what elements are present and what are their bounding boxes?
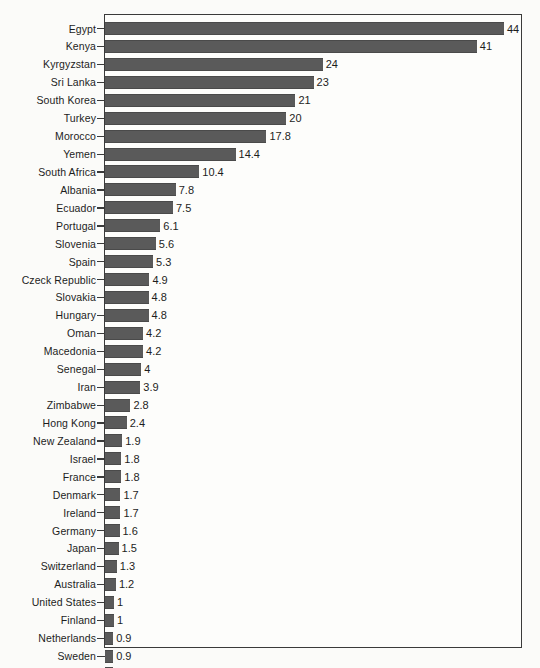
category-label: South Korea bbox=[37, 91, 96, 109]
bar-value-label: 0.9 bbox=[113, 629, 131, 647]
bar-row: Slovakia4.8 bbox=[0, 288, 540, 306]
bar-row: Turkey20 bbox=[0, 109, 540, 127]
bar-row: New Zealand1.9 bbox=[0, 432, 540, 450]
bar bbox=[105, 452, 121, 465]
bar bbox=[105, 112, 286, 125]
category-label: Senegal bbox=[57, 360, 96, 378]
bar bbox=[105, 148, 236, 161]
category-label: Sri Lanka bbox=[51, 73, 96, 91]
bar bbox=[105, 165, 199, 178]
category-label: France bbox=[63, 468, 96, 486]
bar-row: Morocco17.8 bbox=[0, 127, 540, 145]
axis-tick bbox=[97, 207, 105, 208]
axis-tick bbox=[97, 315, 105, 316]
category-label: Spain bbox=[69, 253, 96, 271]
bar-rows-container: Egypt44Kenya41Kyrgyzstan24Sri Lanka23Sou… bbox=[0, 0, 540, 668]
bar-value-label: 7.5 bbox=[173, 199, 191, 217]
category-label: Hong Kong bbox=[43, 414, 96, 432]
bar-row: Israel1.8 bbox=[0, 450, 540, 468]
category-label: Egypt bbox=[69, 20, 96, 38]
bar-row: Iran3.9 bbox=[0, 378, 540, 396]
bar bbox=[105, 578, 116, 591]
axis-tick bbox=[97, 566, 105, 567]
bar-value-label: 5.6 bbox=[156, 235, 174, 253]
bar-row: South Africa10.4 bbox=[0, 163, 540, 181]
bar-value-label: 1.7 bbox=[120, 486, 138, 504]
axis-tick bbox=[97, 422, 105, 423]
category-label: South Africa bbox=[38, 163, 96, 181]
category-label: Slovenia bbox=[55, 235, 96, 253]
bar bbox=[105, 58, 323, 71]
category-label: Oman bbox=[67, 324, 96, 342]
bar-value-label: 1.2 bbox=[116, 575, 134, 593]
bar bbox=[105, 219, 160, 232]
bar-row: Sweden0.9 bbox=[0, 647, 540, 665]
bar bbox=[105, 273, 149, 286]
axis-tick bbox=[97, 136, 105, 137]
bar-value-label: 1.8 bbox=[121, 450, 139, 468]
bar bbox=[105, 363, 141, 376]
bar-value-label: 1.3 bbox=[117, 557, 135, 575]
category-label: Sweden bbox=[57, 647, 96, 665]
bar-value-label: 1 bbox=[114, 611, 123, 629]
bar-row: Hungary4.8 bbox=[0, 306, 540, 324]
axis-tick bbox=[97, 154, 105, 155]
bar bbox=[105, 76, 314, 89]
bar bbox=[105, 506, 120, 519]
bar-value-label: 14.4 bbox=[236, 145, 260, 163]
category-label: New Zealand bbox=[33, 432, 96, 450]
bar bbox=[105, 650, 113, 663]
axis-tick bbox=[97, 261, 105, 262]
bar bbox=[105, 560, 117, 573]
axis-tick bbox=[97, 189, 105, 190]
bar bbox=[105, 130, 266, 143]
axis-tick bbox=[97, 512, 105, 513]
category-label: Albania bbox=[60, 181, 96, 199]
bar-value-label: 4.8 bbox=[149, 306, 167, 324]
axis-tick bbox=[97, 476, 105, 477]
axis-tick bbox=[97, 243, 105, 244]
axis-tick bbox=[97, 28, 105, 29]
axis-tick bbox=[97, 333, 105, 334]
bar-row: Slovenia5.6 bbox=[0, 235, 540, 253]
bar-row: Switzerland1.3 bbox=[0, 557, 540, 575]
bar-value-label: 2.4 bbox=[127, 414, 145, 432]
axis-tick bbox=[97, 351, 105, 352]
category-label: Turkey bbox=[64, 109, 96, 127]
bar bbox=[105, 614, 114, 627]
bar-value-label: 7.8 bbox=[176, 181, 194, 199]
bar bbox=[105, 94, 295, 107]
bar-value-label: 4.2 bbox=[143, 324, 161, 342]
category-label: Finland bbox=[61, 611, 96, 629]
bar-row: Japan1.5 bbox=[0, 539, 540, 557]
bar-value-label: 10.4 bbox=[199, 163, 223, 181]
axis-tick bbox=[97, 458, 105, 459]
category-label: Zimbabwe bbox=[47, 396, 96, 414]
bar-value-label: 17.8 bbox=[266, 127, 290, 145]
axis-tick bbox=[97, 82, 105, 83]
bar-row: United States1 bbox=[0, 593, 540, 611]
bar-row: Spain5.3 bbox=[0, 253, 540, 271]
category-label: Czeck Republic bbox=[22, 271, 96, 289]
category-label: Israel bbox=[70, 450, 96, 468]
axis-tick bbox=[97, 279, 105, 280]
bar-row: Australia1.2 bbox=[0, 575, 540, 593]
bar-row: Czeck Republic4.9 bbox=[0, 271, 540, 289]
category-label: Netherlands bbox=[38, 629, 96, 647]
bar-row: Kenya41 bbox=[0, 37, 540, 55]
axis-tick bbox=[97, 548, 105, 549]
bar-value-label: 3.9 bbox=[140, 378, 158, 396]
bar-row: Netherlands0.9 bbox=[0, 629, 540, 647]
bar-row: Hong Kong2.4 bbox=[0, 414, 540, 432]
bar-value-label: 0.9 bbox=[113, 647, 131, 665]
axis-tick bbox=[97, 530, 105, 531]
bar bbox=[105, 327, 143, 340]
bar-row: Oman4.2 bbox=[0, 324, 540, 342]
bar bbox=[105, 381, 140, 394]
category-label: Switzerland bbox=[41, 557, 96, 575]
bar bbox=[105, 40, 477, 53]
bar-value-label: 23 bbox=[314, 73, 329, 91]
axis-tick bbox=[97, 100, 105, 101]
bar-row: Finland1 bbox=[0, 611, 540, 629]
bar-value-label: 21 bbox=[295, 91, 310, 109]
